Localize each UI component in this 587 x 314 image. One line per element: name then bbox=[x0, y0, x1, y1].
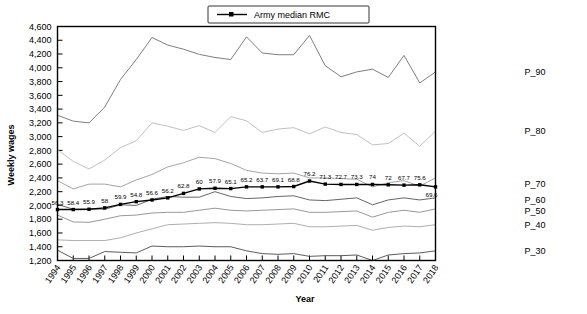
median-data-label-1995: 58.4 bbox=[67, 199, 80, 206]
median-data-label-2017: 75.6 bbox=[414, 174, 427, 181]
median-marker bbox=[245, 185, 248, 188]
median-data-label-2009: 68.8 bbox=[288, 176, 301, 183]
y-tick-label-3400: 3,400 bbox=[29, 104, 52, 114]
right-label-P_50: P_50 bbox=[524, 206, 545, 216]
x-axis-title: Year bbox=[295, 294, 315, 304]
right-label-P_90: P_90 bbox=[524, 67, 545, 77]
median-marker bbox=[339, 183, 342, 186]
y-tick-label-1800: 1,800 bbox=[29, 214, 52, 224]
y-tick-label-1200: 1,200 bbox=[29, 256, 52, 266]
median-marker bbox=[229, 187, 232, 190]
median-marker bbox=[324, 182, 327, 185]
median-data-label-2007: 63.7 bbox=[256, 176, 269, 183]
y-tick-label-2200: 2,200 bbox=[29, 187, 52, 197]
median-marker bbox=[418, 183, 421, 186]
median-data-label-2011: 71.3 bbox=[319, 173, 332, 180]
median-marker bbox=[87, 208, 90, 211]
chart-container: Weekly wages 1,2001,4001,6001,8002,0002,… bbox=[0, 0, 587, 314]
median-data-label-2005: 65.1 bbox=[225, 178, 238, 185]
median-data-label-2010: 76.2 bbox=[303, 170, 316, 177]
y-tick-label-2600: 2,600 bbox=[29, 159, 52, 169]
median-data-label-2002: 62.8 bbox=[177, 182, 190, 189]
legend-label-army-median-rmc: Army median RMC bbox=[254, 10, 331, 20]
median-marker bbox=[292, 185, 295, 188]
y-tick-label-2000: 2,000 bbox=[29, 201, 52, 211]
y-tick-label-3800: 3,800 bbox=[29, 77, 52, 87]
y-axis-title: Weekly wages bbox=[6, 125, 16, 186]
median-marker bbox=[119, 203, 122, 206]
median-marker bbox=[387, 183, 390, 186]
y-tick-label-3600: 3,600 bbox=[29, 91, 52, 101]
median-marker bbox=[72, 208, 75, 211]
median-data-label-2000: 56.6 bbox=[146, 189, 159, 196]
median-marker bbox=[182, 192, 185, 195]
median-data-label-1999: 54.8 bbox=[130, 191, 143, 198]
median-marker bbox=[371, 183, 374, 186]
y-tick-label-4400: 4,400 bbox=[29, 35, 52, 45]
y-tick-label-2400: 2,400 bbox=[29, 173, 52, 183]
median-data-label-1997: 58 bbox=[101, 197, 108, 204]
chart-legend: Army median RMC bbox=[208, 6, 369, 23]
y-tick-label-4600: 4,600 bbox=[29, 22, 52, 32]
y-tick-label-1600: 1,600 bbox=[29, 228, 52, 238]
right-label-P_30: P_30 bbox=[524, 246, 545, 256]
median-marker bbox=[135, 200, 138, 203]
median-marker bbox=[150, 198, 153, 201]
y-tick-label-3000: 3,000 bbox=[29, 132, 52, 142]
right-label-P_40: P_40 bbox=[524, 220, 545, 230]
y-tick-label-4000: 4,000 bbox=[29, 63, 52, 73]
median-data-label-2012: 72.7 bbox=[335, 173, 348, 180]
median-marker bbox=[213, 187, 216, 190]
median-data-label-1996: 55.9 bbox=[83, 198, 96, 205]
median-marker bbox=[402, 183, 405, 186]
right-label-P_70: P_70 bbox=[524, 179, 545, 189]
median-data-label-2013: 73.3 bbox=[351, 173, 364, 180]
right-label-P_80: P_80 bbox=[524, 126, 545, 136]
median-marker bbox=[261, 185, 264, 188]
y-tick-label-2800: 2,800 bbox=[29, 146, 52, 156]
y-tick-label-3200: 3,200 bbox=[29, 118, 52, 128]
median-data-label-2014: 74 bbox=[369, 173, 376, 180]
median-data-label-2004: 57.9 bbox=[209, 177, 222, 184]
y-tick-label-4200: 4,200 bbox=[29, 49, 52, 59]
median-marker bbox=[103, 206, 106, 209]
y-tick-label-1400: 1,400 bbox=[29, 242, 52, 252]
median-data-label-1998: 59.9 bbox=[114, 193, 127, 200]
median-data-label-2001: 56.2 bbox=[162, 187, 175, 194]
right-label-P_60: P_60 bbox=[524, 195, 545, 205]
median-marker bbox=[308, 179, 311, 182]
median-marker bbox=[166, 196, 169, 199]
median-data-label-2016: 67.7 bbox=[398, 174, 411, 181]
median-marker bbox=[276, 185, 279, 188]
median-data-label-2015: 72 bbox=[385, 174, 392, 181]
y-axis-title-text: Weekly wages bbox=[6, 125, 16, 186]
median-data-label-2008: 69.1 bbox=[272, 176, 285, 183]
median-data-label-2006: 65.2 bbox=[240, 176, 253, 183]
median-data-label-2003: 60 bbox=[196, 178, 203, 185]
line-chart: Weekly wages 1,2001,4001,6001,8002,0002,… bbox=[0, 0, 587, 314]
legend-marker-swatch bbox=[229, 12, 234, 17]
x-axis-title-text: Year bbox=[295, 294, 315, 304]
median-marker bbox=[355, 183, 358, 186]
median-marker bbox=[198, 187, 201, 190]
